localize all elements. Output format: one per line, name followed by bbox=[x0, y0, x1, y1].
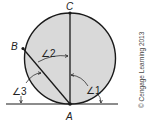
label-b: B bbox=[11, 41, 18, 52]
label-angle-2: ∠2 bbox=[41, 48, 56, 59]
label-a: A bbox=[65, 111, 73, 122]
geometry-diagram: C B A ∠2 ∠1 ∠3 © Cengage Learning 2013 bbox=[0, 0, 147, 134]
label-c: C bbox=[66, 1, 74, 12]
copyright-text: © Cengage Learning 2013 bbox=[138, 31, 146, 108]
point-a-dot bbox=[68, 102, 72, 106]
point-b-dot bbox=[21, 47, 24, 50]
label-angle-1: ∠1 bbox=[86, 85, 101, 96]
label-angle-3: ∠3 bbox=[12, 86, 27, 97]
